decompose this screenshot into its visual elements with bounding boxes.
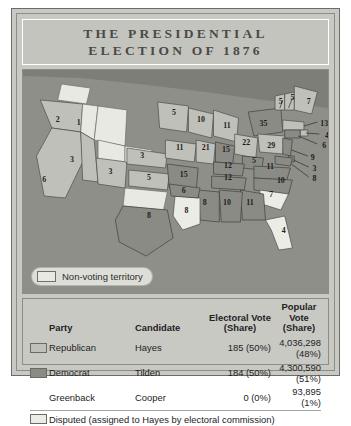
state-vote-label: 11 [267, 162, 274, 171]
state-connecticut [285, 130, 300, 138]
row-party: Greenback [49, 385, 135, 410]
state-vote-label: 8 [313, 174, 317, 183]
row-electoral-vote: 184 (50%) [209, 360, 277, 385]
row-party: Republican [49, 336, 135, 361]
state-vote-label: 29 [267, 141, 275, 150]
header-popular-vote: Popular Vote (Share) [277, 302, 321, 336]
state-vote-label: 5 [279, 97, 283, 106]
state-vote-label: 3 [313, 164, 317, 173]
state-vote-label: 4 [282, 226, 286, 235]
electoral-map: .rep{fill:#c0c0bb;stroke:#4c4c48;stroke-… [22, 69, 329, 294]
state-vote-label: 6 [322, 141, 326, 150]
state-vote-label: 8 [203, 198, 207, 207]
map-legend: Non-voting territory [32, 268, 152, 285]
state-vote-label: 7 [269, 190, 273, 199]
footnote-swatch-cell [30, 410, 49, 426]
header-popular-line1: Popular Vote [277, 302, 321, 323]
state-vote-label: 15 [180, 170, 188, 179]
state-vote-label: 9 [311, 153, 315, 162]
header-swatch [30, 302, 49, 336]
results-table-element: Party Candidate Electoral Vote (Share) P… [30, 302, 321, 426]
democrat-swatch [30, 368, 47, 378]
state-vote-label: 22 [242, 138, 250, 147]
state-vote-label: 11 [223, 121, 230, 130]
state-vote-label: 5 [290, 93, 294, 102]
row-candidate: Hayes [135, 336, 209, 361]
title-banner: THE PRESIDENTIAL ELECTION OF 1876 [22, 19, 329, 65]
table-row: DemocratTilden184 (50%)4,300,590 (51%) [30, 360, 321, 385]
map-svg: .rep{fill:#c0c0bb;stroke:#4c4c48;stroke-… [23, 70, 328, 293]
state-vote-label: 8 [147, 211, 151, 220]
page-title-line-1: THE PRESIDENTIAL [83, 25, 267, 42]
state-washington-territory [58, 84, 91, 104]
row-swatch-cell [30, 385, 49, 410]
header-popular-line2: (Share) [277, 323, 321, 334]
table-body: RepublicanHayes185 (50%)4,036,298 (48%)D… [30, 336, 321, 411]
state-vote-label: 11 [246, 198, 253, 207]
state-vote-label: 35 [260, 119, 268, 128]
table-row: GreenbackCooper0 (0%)93,895 (1%) [30, 385, 321, 410]
state-vote-label: 10 [277, 176, 285, 185]
non-voting-territory-swatch [37, 271, 56, 282]
state-vote-label: 21 [202, 143, 210, 152]
state-vote-label: 15 [222, 145, 230, 154]
state-vote-label: 6 [182, 186, 186, 195]
state-vote-label: 10 [197, 115, 205, 124]
poster: THE PRESIDENTIAL ELECTION OF 1876 .rep{f… [11, 8, 340, 376]
header-candidate: Candidate [135, 302, 209, 336]
state-vote-label: 7 [307, 97, 311, 106]
row-electoral-vote: 185 (50%) [209, 336, 277, 361]
state-new-jersey [283, 138, 293, 156]
state-vote-label: 11 [176, 143, 183, 152]
row-swatch-cell [30, 360, 49, 385]
state-vote-label: 8 [185, 206, 189, 215]
header-electoral-vote: Electoral Vote (Share) [209, 302, 277, 336]
state-vote-label: 10 [223, 198, 231, 207]
state-vote-label: 5 [172, 108, 176, 117]
state-vote-label: 4 [325, 131, 328, 140]
state-vote-label: 1 [77, 118, 81, 127]
results-table: Party Candidate Electoral Vote (Share) P… [22, 298, 329, 365]
header-electoral-line2: (Share) [209, 323, 271, 334]
table-row: RepublicanHayes185 (50%)4,036,298 (48%) [30, 336, 321, 361]
state-vote-label: 5 [252, 156, 256, 165]
state-vote-label: 13 [320, 119, 328, 128]
row-party: Democrat [49, 360, 135, 385]
state-vote-label: 3 [70, 155, 74, 164]
state-vote-label: 3 [140, 151, 144, 160]
poster-inner: THE PRESIDENTIAL ELECTION OF 1876 .rep{f… [16, 13, 335, 371]
table-header-row: Party Candidate Electoral Vote (Share) P… [30, 302, 321, 336]
republican-swatch [30, 343, 47, 353]
table-footnote-row: Disputed (assigned to Hayes by electoral… [30, 410, 321, 426]
row-swatch-cell [30, 336, 49, 361]
page-title-line-2: ELECTION OF 1876 [88, 42, 262, 59]
row-popular-vote: 4,300,590 (51%) [277, 360, 321, 385]
disputed-swatch [30, 414, 47, 424]
row-electoral-vote: 0 (0%) [209, 385, 277, 410]
state-mississippi [198, 190, 219, 222]
state-massachusetts [283, 120, 304, 130]
state-vote-label: 2 [56, 115, 60, 124]
row-candidate: Tilden [135, 360, 209, 385]
row-popular-vote: 4,036,298 (48%) [277, 336, 321, 361]
footnote-text: Disputed (assigned to Hayes by electoral… [49, 410, 321, 426]
row-popular-vote: 93,895 (1%) [277, 385, 321, 410]
state-vote-label: 12 [224, 173, 232, 182]
state-maryland [275, 156, 292, 166]
state-vote-label: 5 [147, 173, 151, 182]
legend-label-non-voting: Non-voting territory [62, 271, 143, 282]
header-party: Party [49, 302, 135, 336]
state-vote-label: 6 [42, 175, 46, 184]
row-candidate: Cooper [135, 385, 209, 410]
state-vote-label: 12 [224, 161, 232, 170]
state-vote-label: 3 [109, 167, 113, 176]
